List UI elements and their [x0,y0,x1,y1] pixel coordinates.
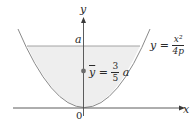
centroid-suffix: a [123,66,130,79]
curve-numerator: x² [172,35,184,46]
x-axis-label: x [183,104,189,115]
origin-label: 0 [76,111,82,121]
y-axis-arrow-icon [81,17,86,23]
parabola-diagram: y x 0 a y = x² 4p y = 3 5 a [0,0,193,124]
centroid-var: y [89,66,95,79]
curve-equation-label: y = x² 4p [150,35,184,56]
centroid-fraction: 3 5 [111,62,119,83]
level-a-label: a [75,34,82,45]
centroid-denominator: 5 [111,73,119,83]
curve-fraction: x² 4p [172,35,184,56]
centroid-numerator: 3 [111,62,119,73]
centroid-dot [81,69,86,74]
y-axis-label: y [80,4,86,15]
centroid-eq-sign: = [99,66,108,79]
curve-lhs: y [150,39,156,52]
curve-eq-sign: = [160,39,169,52]
centroid-label: y = 3 5 a [89,62,129,83]
curve-denominator: 4p [172,46,184,56]
